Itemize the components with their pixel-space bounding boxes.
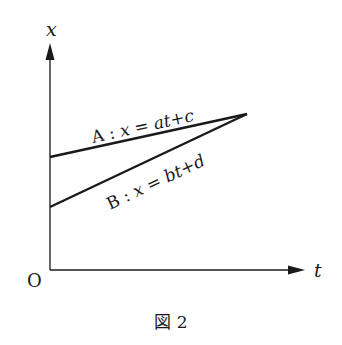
line-a-label: A : x = at+c <box>89 105 196 147</box>
position-time-graph: x t O A : x = at+c B : x = bt+d <box>0 0 342 345</box>
t-axis-arrowhead-icon <box>288 266 305 275</box>
figure-caption: 図 2 <box>0 308 342 333</box>
line-b-label: B : x = bt+d <box>103 150 208 214</box>
y-axis-label: x <box>46 18 57 40</box>
y-axis-arrowhead-icon <box>46 43 55 60</box>
t-axis-label: t <box>314 259 322 281</box>
origin-label: O <box>27 270 42 291</box>
